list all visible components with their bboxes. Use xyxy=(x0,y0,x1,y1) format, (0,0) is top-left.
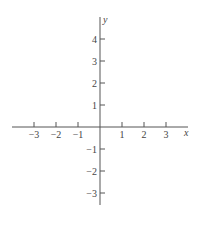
y-tick-label: 2 xyxy=(92,78,97,89)
x-tick-label: −2 xyxy=(51,129,62,140)
y-tick-label: 1 xyxy=(92,100,97,111)
x-tick-label: 3 xyxy=(164,129,169,140)
y-tick-label: 3 xyxy=(92,56,97,67)
x-tick-label: 2 xyxy=(142,129,147,140)
y-tick-label: 4 xyxy=(92,34,97,45)
x-tick-label: −1 xyxy=(73,129,84,140)
x-tick-label: 1 xyxy=(120,129,125,140)
y-tick-label: −3 xyxy=(86,188,97,199)
coordinate-plane: −3−2−1123 4321−1−2−3 x y xyxy=(0,0,199,227)
y-axis-label: y xyxy=(102,14,108,25)
x-axis-label: x xyxy=(183,127,189,138)
x-tick-label: −3 xyxy=(29,129,40,140)
y-ticks: 4321−1−2−3 xyxy=(86,34,105,199)
x-ticks: −3−2−1123 xyxy=(29,122,169,140)
y-tick-label: −2 xyxy=(86,166,97,177)
y-tick-label: −1 xyxy=(86,144,97,155)
